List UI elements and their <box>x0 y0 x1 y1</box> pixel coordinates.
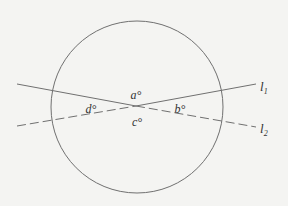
angle-label-a: a° <box>131 88 142 102</box>
angle-label-d: d° <box>86 102 97 116</box>
circle <box>51 21 223 193</box>
angle-label-c: c° <box>132 115 142 129</box>
angle-label-b: b° <box>175 102 186 116</box>
geometry-diagram: a° b° c° d° l1 l2 <box>0 0 288 206</box>
line-label-l2: l2 <box>260 121 268 138</box>
line-label-l1: l1 <box>260 79 268 96</box>
